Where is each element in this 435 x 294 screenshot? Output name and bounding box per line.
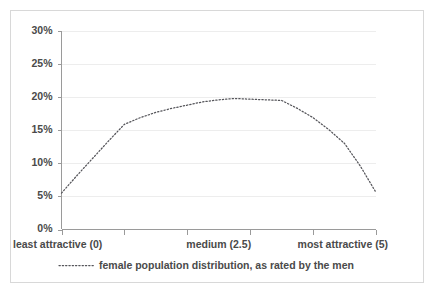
x-axis: [62, 230, 377, 235]
series-line-female-population-distribution: [62, 98, 377, 193]
y-axis-tick-labels: 0%5%10%15%20%25%30%: [31, 24, 53, 235]
y-tick-label: 5%: [37, 189, 53, 201]
y-axis: [58, 31, 62, 231]
legend: female population distribution, as rated…: [59, 259, 354, 271]
y-tick-label: 20%: [31, 90, 53, 102]
y-tick-label: 10%: [31, 156, 53, 168]
y-tick-label: 0%: [37, 222, 53, 234]
x-axis-category-labels: least attractive (0)medium (2.5)most att…: [13, 238, 388, 250]
legend-label: female population distribution, as rated…: [99, 259, 354, 271]
y-tick-marks: [58, 32, 62, 231]
x-tick-marks: [63, 230, 377, 235]
x-axis-label: least attractive (0): [13, 238, 102, 250]
y-tick-label: 25%: [31, 57, 53, 69]
gridlines: [62, 32, 377, 197]
x-axis-label: most attractive (5): [298, 238, 388, 250]
line-chart-svg: 0%5%10%15%20%25%30% least attractive (0)…: [11, 11, 425, 284]
chart-figure: 0%5%10%15%20%25%30% least attractive (0)…: [10, 10, 424, 283]
y-tick-label: 15%: [31, 123, 53, 135]
plot-area: 0%5%10%15%20%25%30% least attractive (0)…: [11, 11, 423, 282]
x-axis-label: medium (2.5): [186, 238, 251, 250]
y-tick-label: 30%: [31, 24, 53, 36]
